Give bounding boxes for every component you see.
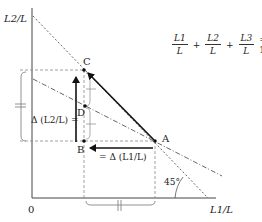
point-a — [153, 139, 157, 143]
label-a: A — [162, 134, 169, 144]
fraction-3: L3 L — [239, 33, 255, 56]
fraction-2: L2 L — [205, 33, 221, 56]
brace-cd — [86, 73, 90, 106]
point-b — [82, 139, 86, 143]
point-c — [82, 68, 86, 72]
delta-l1-label: = Δ (L1/L) — [99, 153, 147, 162]
label-c: C — [83, 57, 91, 67]
label-b: B — [77, 145, 84, 155]
constraint-equation: L1 L + L2 L + L3 L = 1 — [170, 33, 262, 56]
origin-label: 0 — [28, 205, 34, 215]
arrow-a-to-c — [88, 73, 154, 140]
fraction-1: L1 L — [172, 33, 188, 56]
angle-label: 45° — [164, 178, 180, 187]
brace-db — [86, 108, 90, 139]
delta-l2-label: Δ (L2/L) = — [31, 116, 79, 125]
x-axis-label: L1/L — [210, 205, 233, 215]
y-axis-label: L2/L — [4, 14, 27, 24]
bottom-brace — [86, 201, 155, 205]
left-brace — [21, 72, 26, 141]
